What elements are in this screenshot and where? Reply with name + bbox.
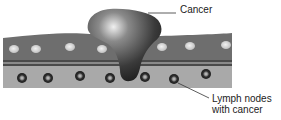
diagram: Cancer Lymph nodes with cancer bbox=[0, 0, 281, 120]
lymph-nodes-label: Lymph nodes with cancer bbox=[212, 93, 272, 115]
lower-tissue-band bbox=[3, 66, 232, 88]
lymph-label-line2: with cancer bbox=[212, 104, 272, 115]
cancer-label: Cancer bbox=[180, 4, 212, 15]
lymph-label-line1: Lymph nodes bbox=[212, 93, 272, 104]
